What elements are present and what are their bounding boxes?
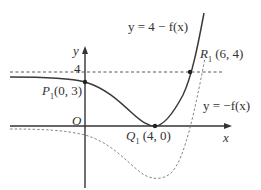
point-p-coords: (0, 3) (54, 83, 82, 98)
x-axis-label: x (223, 131, 229, 144)
point-p1 (83, 80, 87, 84)
point-r-sub: 1 (208, 55, 212, 64)
origin-label: O (72, 114, 81, 127)
point-r-letter: R (200, 46, 208, 61)
solid-curve-label: y = 4 − f(x) (128, 20, 188, 33)
point-r-coords: (6, 4) (215, 46, 243, 61)
point-q1-label: Q1 (4, 0) (126, 129, 171, 146)
point-q-letter: Q (126, 128, 135, 143)
y-tick-4-label: 4 (74, 62, 81, 75)
point-q-coords: (4, 0) (143, 128, 171, 143)
y-axis-label: y (73, 44, 79, 57)
dashed-curve-path (10, 58, 205, 178)
point-q-sub: 1 (135, 137, 139, 146)
point-r1 (188, 70, 192, 74)
x-axis-arrow-icon (224, 123, 232, 129)
dashed-curve-label: y = −f(x) (203, 99, 250, 112)
y-axis-arrow-icon (82, 46, 88, 54)
point-p-letter: P (42, 83, 50, 98)
point-p1-label: P1(0, 3) (42, 84, 82, 101)
graph-figure: y 4 O x P1(0, 3) Q1 (4, 0) R1 (6, 4) y =… (0, 0, 261, 190)
point-r1-label: R1 (6, 4) (200, 47, 243, 64)
